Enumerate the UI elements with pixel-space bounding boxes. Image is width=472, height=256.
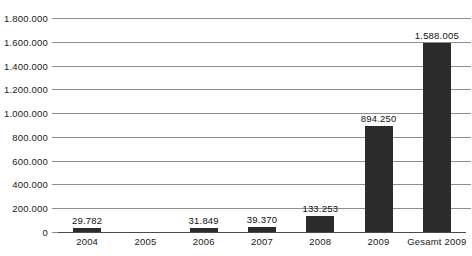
y-tick-mark-right (466, 137, 471, 138)
gridline (58, 161, 466, 162)
y-tick-mark-right (466, 161, 471, 162)
y-axis-label: 600.000 (12, 155, 48, 166)
x-axis-tick-labels: 200420052006200720082009Gesamt 2009 (58, 236, 466, 254)
x-axis-label: 2009 (368, 236, 390, 247)
bar-value-label: 29.782 (72, 215, 102, 226)
y-axis-label: 200.000 (12, 203, 48, 214)
y-axis-label: 1.200.000 (4, 84, 48, 95)
y-tick-mark-right (466, 113, 471, 114)
gridline (58, 42, 466, 43)
bar-value-label: 39.370 (247, 214, 277, 225)
y-axis-label: 1.000.000 (4, 108, 48, 119)
y-axis-label: 0 (43, 227, 48, 238)
gridline (58, 18, 466, 19)
x-axis-label: 2007 (251, 236, 273, 247)
y-axis-label: 1.600.000 (4, 36, 48, 47)
bar (190, 228, 218, 232)
y-tick-mark-right (466, 208, 471, 209)
gridline (58, 66, 466, 67)
y-axis-label: 800.000 (12, 131, 48, 142)
bar-chart: 0200.000400.000600.000800.0001.000.0001.… (0, 0, 472, 256)
bar (365, 126, 393, 232)
y-tick-mark (52, 89, 58, 90)
y-tick-mark-right (466, 42, 471, 43)
y-tick-mark (52, 42, 58, 43)
y-axis-tick-labels: 0200.000400.000600.000800.0001.000.0001.… (0, 18, 52, 232)
bar-value-label: 133.253 (302, 203, 338, 214)
bar (423, 43, 451, 232)
y-axis-label: 1.800.000 (4, 13, 48, 24)
gridline (58, 113, 466, 114)
y-tick-mark-right (466, 184, 471, 185)
y-tick-mark-right (466, 66, 471, 67)
gridline (58, 184, 466, 185)
x-axis-label: 2008 (309, 236, 331, 247)
y-axis-label: 1.400.000 (4, 60, 48, 71)
y-tick-mark (52, 18, 58, 19)
bar-value-label: 1.588.005 (415, 30, 459, 41)
bar-value-label: 31.849 (189, 215, 219, 226)
y-tick-mark (52, 137, 58, 138)
axis-baseline (58, 232, 466, 233)
y-tick-mark-right (466, 18, 471, 19)
y-tick-mark-right (466, 89, 471, 90)
x-axis-label: Gesamt 2009 (407, 236, 466, 247)
bar-value-label: 894.250 (361, 113, 397, 124)
x-axis-label: 2004 (76, 236, 98, 247)
gridline (58, 137, 466, 138)
bar (306, 216, 334, 232)
gridline (58, 89, 466, 90)
y-tick-mark (52, 208, 58, 209)
y-tick-mark (52, 113, 58, 114)
bar (248, 227, 276, 232)
y-axis-label: 400.000 (12, 179, 48, 190)
y-tick-mark (52, 66, 58, 67)
gridline (58, 208, 466, 209)
y-tick-mark (52, 184, 58, 185)
bar (73, 228, 101, 232)
y-tick-mark (52, 161, 58, 162)
y-tick-mark (52, 232, 58, 233)
x-axis-label: 2006 (193, 236, 215, 247)
plot-area: 29.78231.84939.370133.253894.2501.588.00… (58, 18, 466, 232)
x-axis-label: 2005 (134, 236, 156, 247)
